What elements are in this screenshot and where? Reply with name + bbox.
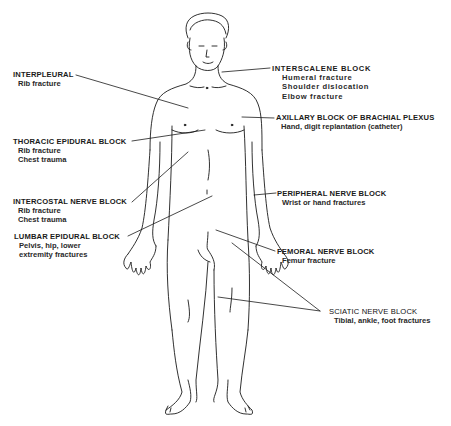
thoracic-epidural-indication-1: Rib fracture [13, 146, 126, 155]
axillary-title: AXILLARY BLOCK OF BRACHIAL PLEXUS [276, 113, 434, 122]
interpleural-title: INTERPLEURAL [13, 70, 73, 79]
intercostal-indication-2: Chest trauma [13, 215, 127, 224]
thoracic-epidural-indication-2: Chest trauma [13, 155, 126, 164]
leader-axillary [242, 117, 274, 118]
lumbar-epidural-indication-1: Pelvis, hip, lower [14, 241, 120, 250]
leader-interscalene [222, 68, 270, 72]
label-intercostal: INTERCOSTAL NERVE BLOCK Rib fracture Che… [13, 197, 127, 225]
legs-outline [165, 262, 252, 414]
axillary-indication: Hand, digit replantation (catheter) [276, 122, 434, 131]
peripheral-indication: Wrist or hand fractures [277, 198, 386, 207]
label-axillary: AXILLARY BLOCK OF BRACHIAL PLEXUS Hand, … [276, 113, 434, 131]
label-interscalene: INTERSCALENE BLOCK Humeral fracture Shou… [272, 64, 371, 101]
peripheral-title: PERIPHERAL NERVE BLOCK [277, 189, 386, 198]
interscalene-indication-3: Elbow fracture [272, 92, 371, 101]
lumbar-epidural-indication-2: extremity fractures [14, 250, 120, 259]
head-outline [186, 13, 229, 71]
femoral-indication: Femur fracture [277, 256, 375, 265]
leader-femoral [216, 230, 275, 251]
interpleural-indication: Rib fracture [13, 79, 73, 88]
lumbar-epidural-title: LUMBAR EPIDURAL BLOCK [14, 232, 120, 241]
interscalene-indication-2: Shoulder dislocation [272, 82, 371, 91]
label-femoral: FEMORAL NERVE BLOCK Femur fracture [277, 247, 375, 265]
sciatic-title: SCIATIC NERVE BLOCK [329, 307, 431, 316]
label-interpleural: INTERPLEURAL Rib fracture [13, 70, 73, 88]
block-diagram: INTERPLEURAL Rib fracture THORACIC EPIDU… [0, 0, 451, 426]
thoracic-epidural-title: THORACIC EPIDURAL BLOCK [13, 137, 126, 146]
label-thoracic-epidural: THORACIC EPIDURAL BLOCK Rib fracture Che… [13, 137, 126, 165]
interscalene-title: INTERSCALENE BLOCK [272, 64, 371, 73]
leader-interpleural [76, 75, 188, 108]
label-sciatic: SCIATIC NERVE BLOCK Tibial, ankle, foot … [329, 307, 431, 325]
intercostal-indication-1: Rib fracture [13, 206, 127, 215]
sciatic-indication: Tibial, ankle, foot fractures [329, 316, 431, 325]
label-lumbar-epidural: LUMBAR EPIDURAL BLOCK Pelvis, hip, lower… [14, 232, 120, 260]
leader-thoracic-epidural [132, 130, 205, 141]
femoral-title: FEMORAL NERVE BLOCK [277, 247, 375, 256]
right-arm-outline [124, 142, 160, 275]
label-peripheral: PERIPHERAL NERVE BLOCK Wrist or hand fra… [277, 189, 386, 207]
intercostal-title: INTERCOSTAL NERVE BLOCK [13, 197, 127, 206]
interscalene-indication-1: Humeral fracture [272, 73, 371, 82]
